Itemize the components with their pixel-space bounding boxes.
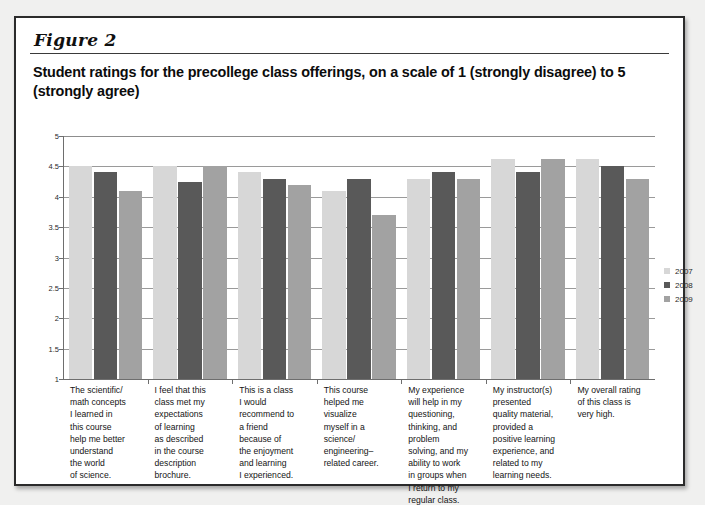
category-label-line: thinking, and <box>408 421 483 433</box>
bar-2009 <box>541 159 565 379</box>
legend-label: 2008 <box>675 281 693 290</box>
legend-swatch-icon <box>664 282 670 288</box>
category-label-line: class met my <box>155 396 230 408</box>
bar-2008 <box>601 166 625 379</box>
y-axis-tick-label: 4 <box>33 193 59 202</box>
bar-2009 <box>203 166 227 379</box>
bar-group <box>486 136 571 379</box>
bar-group <box>401 136 486 379</box>
category-label-line: because of <box>239 433 314 445</box>
legend-item-2008: 2008 <box>664 278 705 292</box>
category-label-line: recommend to <box>239 408 314 420</box>
category-label-line: helped me <box>324 396 399 408</box>
category-label: I feel that thisclass met myexpectations… <box>155 384 230 482</box>
category-label-line: I return to my <box>408 482 483 494</box>
bar-group <box>317 136 402 379</box>
legend-item-2009: 2009 <box>664 292 705 306</box>
category-label-line: The scientific/ <box>70 384 145 396</box>
category-label-line: experience, and <box>493 445 568 457</box>
bar-2007 <box>69 166 93 379</box>
bar-2007 <box>238 172 262 379</box>
y-axis-tick-label: 3 <box>33 254 59 263</box>
category-label-line: science/ <box>324 433 399 445</box>
x-axis-category-labels: The scientific/math conceptsI learned in… <box>63 384 655 478</box>
y-axis-tick-label: 3.5 <box>33 223 59 232</box>
category-label-line: will help in my <box>408 396 483 408</box>
figure-divider <box>30 53 669 54</box>
bar-2008 <box>178 182 202 379</box>
bar-group <box>63 136 148 379</box>
y-axis-tick-label: 1.5 <box>33 345 59 354</box>
category-label-line: positive learning <box>493 433 568 445</box>
category-label-line: description <box>155 457 230 469</box>
plot-area <box>63 136 655 379</box>
page-background: Figure 2 Student ratings for the precoll… <box>0 0 705 505</box>
y-axis-tick-label: 5 <box>33 132 59 141</box>
category-label-line: My experience <box>408 384 483 396</box>
category-label-line: I feel that this <box>155 384 230 396</box>
legend-swatch-icon <box>664 268 670 274</box>
y-axis-tick-mark <box>59 166 63 167</box>
bar-2008 <box>516 172 540 379</box>
category-label-line: engineering– <box>324 445 399 457</box>
category-label-line: in the course <box>155 445 230 457</box>
bar-2008 <box>263 179 287 379</box>
y-axis-tick-label: 2 <box>33 314 59 323</box>
y-axis-tick-mark <box>59 197 63 198</box>
bars-layer <box>63 136 655 379</box>
category-label-line: I learned in <box>70 408 145 420</box>
category-label: This is a classI wouldrecommend toa frie… <box>239 384 314 482</box>
category-label-line: quality material, <box>493 408 568 420</box>
bar-group <box>570 136 655 379</box>
category-label-line: understand <box>70 445 145 457</box>
category-label-line: in groups when <box>408 469 483 481</box>
category-label-line: regular class. <box>408 494 483 505</box>
category-label-line: provided a <box>493 421 568 433</box>
category-label-line: this course <box>70 421 145 433</box>
y-axis-tick-mark <box>59 349 63 350</box>
bar-2007 <box>491 159 515 379</box>
bar-group <box>232 136 317 379</box>
category-label-line: presented <box>493 396 568 408</box>
bar-2007 <box>322 191 346 379</box>
y-axis-tick-mark <box>59 258 63 259</box>
category-label-line: This course <box>324 384 399 396</box>
legend-label: 2009 <box>675 295 693 304</box>
legend-swatch-icon <box>664 296 670 302</box>
legend-label: 2007 <box>675 267 693 276</box>
category-label: This coursehelped mevisualizemyself in a… <box>324 384 399 469</box>
category-label-line: related career. <box>324 457 399 469</box>
category-label-line: I experienced. <box>239 469 314 481</box>
figure-label: Figure 2 <box>30 28 669 50</box>
chart-legend: 200720082009 <box>664 264 705 306</box>
category-label: My instructor(s)presentedquality materia… <box>493 384 568 482</box>
category-label: The scientific/math conceptsI learned in… <box>70 384 145 482</box>
category-label-line: math concepts <box>70 396 145 408</box>
category-label-line: a friend <box>239 421 314 433</box>
category-label-line: problem <box>408 433 483 445</box>
category-label-line: This is a class <box>239 384 314 396</box>
bar-2007 <box>407 179 431 379</box>
category-label-line: of this class is <box>577 396 652 408</box>
bar-group <box>148 136 233 379</box>
category-label-line: the enjoyment <box>239 445 314 457</box>
bar-2009 <box>626 179 650 379</box>
y-axis-tick-mark <box>59 227 63 228</box>
category-label-line: My instructor(s) <box>493 384 568 396</box>
category-label: My overall ratingof this class isvery hi… <box>577 384 652 421</box>
y-axis-tick-mark <box>59 318 63 319</box>
figure-inner: Figure 2 Student ratings for the precoll… <box>16 18 683 484</box>
bar-2009 <box>288 185 312 379</box>
bar-2009 <box>372 215 396 379</box>
figure-title: Student ratings for the precollege class… <box>30 63 669 100</box>
category-label-line: of learning <box>155 421 230 433</box>
category-label-line: visualize <box>324 408 399 420</box>
figure-card: Figure 2 Student ratings for the precoll… <box>14 16 685 486</box>
x-axis-line <box>63 379 655 380</box>
y-axis-tick-label: 4.5 <box>33 162 59 171</box>
category-label-line: very high. <box>577 408 652 420</box>
y-axis-labels: 54.543.532.521.51 <box>30 136 59 379</box>
category-label-line: myself in a <box>324 421 399 433</box>
category-label-line: solving, and my <box>408 445 483 457</box>
y-axis-tick-mark <box>59 379 63 380</box>
